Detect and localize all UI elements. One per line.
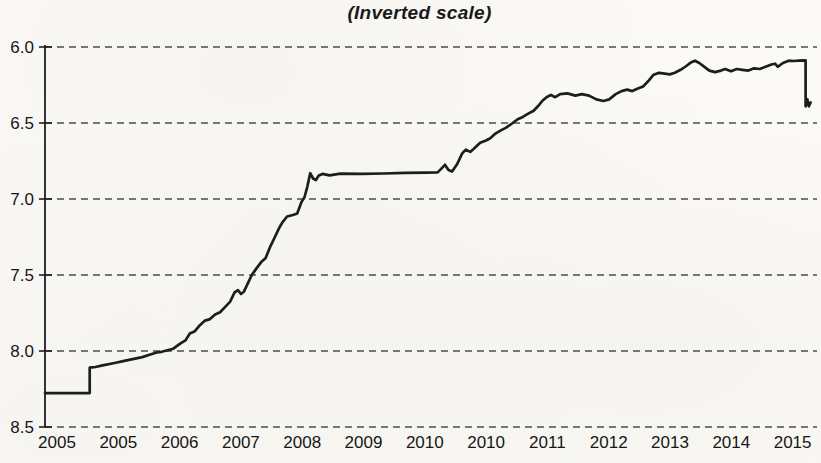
x-tick-label: 2005 <box>38 433 76 452</box>
y-tick-label: 6.0 <box>10 38 34 57</box>
y-tick-label: 8.5 <box>10 418 34 437</box>
y-tick-label: 7.5 <box>10 266 34 285</box>
x-tick-label: 2015 <box>774 433 812 452</box>
x-tick-label: 2011 <box>529 433 566 452</box>
series-line <box>45 60 811 393</box>
x-tick-label: 2006 <box>161 433 199 452</box>
x-tick-label: 2007 <box>222 433 260 452</box>
x-tick-label: 2008 <box>283 433 321 452</box>
scanned-chart-page: (Inverted scale) 6.06.57.07.58.08.520052… <box>0 0 821 463</box>
x-tick-label: 2010 <box>406 433 444 452</box>
x-tick-label: 2014 <box>712 433 750 452</box>
exchange-rate-line-chart: 6.06.57.07.58.08.52005200520062007200820… <box>0 0 821 463</box>
x-tick-label: 2013 <box>651 433 689 452</box>
x-tick-label: 2005 <box>99 433 137 452</box>
x-tick-label: 2009 <box>345 433 383 452</box>
y-tick-label: 6.5 <box>10 114 34 133</box>
x-tick-label: 2010 <box>467 433 505 452</box>
x-tick-label: 2012 <box>590 433 628 452</box>
y-tick-label: 8.0 <box>10 342 34 361</box>
y-tick-label: 7.0 <box>10 190 34 209</box>
